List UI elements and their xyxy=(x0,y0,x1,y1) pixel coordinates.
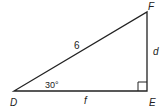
side-label-d: d xyxy=(153,46,159,57)
vertex-label-d: D xyxy=(10,97,17,108)
vertex-label-f: F xyxy=(148,1,155,12)
side-label-f: f xyxy=(84,95,88,106)
triangle-diagram: F d E D f 6 30° xyxy=(0,0,166,111)
angle-label-30: 30° xyxy=(45,80,59,90)
triangle-def xyxy=(14,12,147,91)
right-angle-marker xyxy=(138,82,147,91)
vertex-label-e: E xyxy=(149,97,156,108)
side-label-6: 6 xyxy=(74,40,80,51)
